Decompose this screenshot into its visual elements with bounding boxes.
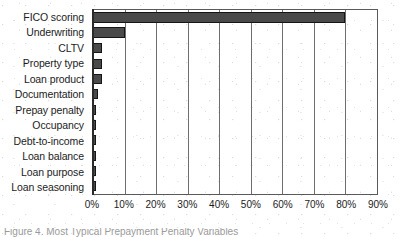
value-axis-tick-label: 20% <box>146 198 166 212</box>
bar-row <box>93 10 377 25</box>
bar-row <box>93 163 377 178</box>
plot-area <box>92 9 378 195</box>
bar <box>93 27 125 38</box>
bar-row <box>93 87 377 102</box>
category-label: Debt-to-income <box>0 133 88 149</box>
category-label: Documentation <box>0 87 88 103</box>
bar-row <box>93 56 377 71</box>
value-axis-tick-label: 0% <box>85 198 99 212</box>
bar-row <box>93 41 377 56</box>
bar-row <box>93 71 377 86</box>
bar-row <box>93 133 377 148</box>
bar-series <box>93 10 377 194</box>
value-axis-tick-labels: 0%10%20%30%40%50%60%70%80%90% <box>92 198 378 212</box>
figure-caption: Figure 4. Most Typical Prepayment Penalt… <box>0 228 401 237</box>
value-axis-tick-label: 40% <box>209 198 229 212</box>
category-label: CLTV <box>0 40 88 56</box>
category-label: Underwriting <box>0 25 88 41</box>
category-label: FICO scoring <box>0 9 88 25</box>
category-label: Loan product <box>0 71 88 87</box>
category-label: Loan purpose <box>0 164 88 180</box>
category-label: Prepay penalty <box>0 102 88 118</box>
category-label: Loan balance <box>0 149 88 165</box>
category-label: Property type <box>0 56 88 72</box>
value-axis-tick-label: 70% <box>304 198 324 212</box>
value-axis-tick-label: 50% <box>241 198 261 212</box>
category-axis-labels: FICO scoring Underwriting CLTV Property … <box>0 9 88 195</box>
figure-caption-text: Figure 4. Most Typical Prepayment Penalt… <box>4 228 238 237</box>
bar-row <box>93 179 377 194</box>
value-axis-tick-label: 60% <box>273 198 293 212</box>
bar <box>93 59 102 69</box>
value-axis-tick-label: 80% <box>336 198 356 212</box>
bar-row <box>93 102 377 117</box>
bar <box>93 12 345 23</box>
bar-row <box>93 25 377 40</box>
value-axis-spine <box>92 9 94 195</box>
bar <box>93 43 102 53</box>
value-axis-tick-label: 90% <box>368 198 388 212</box>
bar-row <box>93 148 377 163</box>
bar <box>93 74 102 84</box>
bar-chart-figure: FICO scoring Underwriting CLTV Property … <box>0 0 401 237</box>
value-axis-tick-label: 10% <box>114 198 134 212</box>
bar-row <box>93 117 377 132</box>
category-label: Occupancy <box>0 118 88 134</box>
value-axis-tick-label: 30% <box>177 198 197 212</box>
category-label: Loan seasoning <box>0 180 88 196</box>
